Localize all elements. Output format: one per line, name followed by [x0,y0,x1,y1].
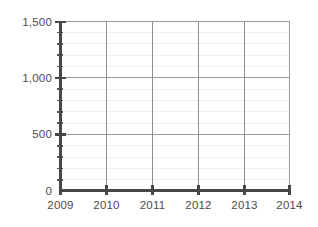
y-axis-tick-label-0: 0 [4,185,52,197]
x-axis-tick-label-2009: 2009 [37,199,84,211]
y-axis-tick-label-1500: 1,500 [4,16,52,28]
y-axis-tick-label-1000: 1,000 [4,72,52,84]
y-axis-tick-label-500: 500 [4,128,52,140]
plot-background [60,21,290,191]
x-axis-tick-label-2012: 2012 [175,199,222,211]
x-axis-tick-label-2013: 2013 [221,199,268,211]
chart-container: 1,500 1,000 500 0 2009 2010 2011 2012 20… [0,0,318,227]
x-axis-tick-label-2014: 2014 [266,199,313,211]
x-axis-tick-label-2010: 2010 [83,199,130,211]
x-axis-tick-label-2011: 2011 [129,199,176,211]
